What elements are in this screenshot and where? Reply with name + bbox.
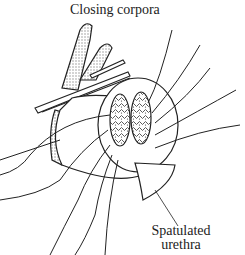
label-line-2: urethra	[148, 238, 214, 252]
surgical-illustration	[0, 0, 245, 255]
cut-surface	[98, 78, 178, 172]
urethra-flap	[135, 163, 178, 226]
label-line-1: Spatulated	[148, 224, 214, 238]
label-closing-corpora: Closing corpora	[70, 3, 160, 17]
corpora-stumps	[62, 24, 112, 90]
label-spatulated-urethra: Spatulated urethra	[148, 224, 214, 252]
